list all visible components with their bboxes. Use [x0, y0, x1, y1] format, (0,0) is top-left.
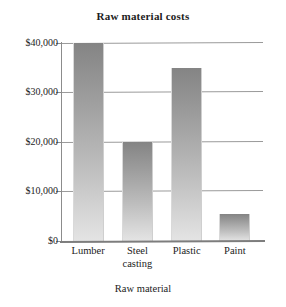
- x-axis-line: [60, 240, 265, 243]
- y-axis-labels: $40,000 $30,000 $20,000 $10,000 $0: [0, 0, 62, 307]
- x-axis-label-plastic: Plastic: [162, 244, 212, 257]
- x-axis-label-steel-casting: Steel casting: [112, 244, 162, 270]
- x-axis-label-paint-line1: Paint: [224, 245, 246, 256]
- y-axis-label-40000: $40,000: [6, 38, 62, 48]
- bar-steel-casting: [122, 142, 153, 241]
- x-axis-labels: Lumber Steel casting Plastic Paint: [62, 244, 263, 278]
- bar-chart-figure: Raw material costs $40,000 $30,000 $20,0…: [0, 0, 286, 307]
- x-axis-label-lumber-line1: Lumber: [72, 245, 105, 256]
- bars-container: [62, 43, 263, 241]
- y-axis-label-10000: $10,000: [6, 186, 62, 196]
- y-axis-label-30000: $30,000: [6, 87, 62, 97]
- x-axis-label-lumber: Lumber: [63, 244, 113, 257]
- x-axis-label-paint: Paint: [210, 244, 260, 257]
- y-axis-label-0: $0: [6, 236, 62, 246]
- bar-plastic: [171, 68, 202, 241]
- bar-paint: [219, 214, 250, 241]
- x-axis-title: Raw material: [0, 283, 286, 294]
- x-axis-label-steel-casting-line1: Steel: [127, 245, 148, 256]
- x-axis-label-plastic-line1: Plastic: [173, 245, 201, 256]
- x-axis-label-steel-casting-line2: casting: [112, 257, 162, 270]
- y-axis-label-20000: $20,000: [6, 137, 62, 147]
- bar-lumber: [73, 43, 104, 241]
